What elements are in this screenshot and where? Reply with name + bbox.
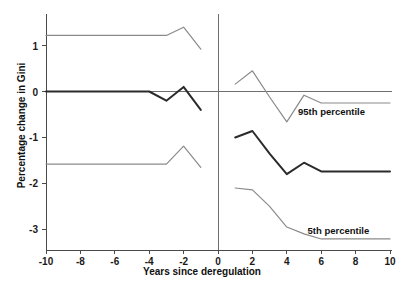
axis-layer (42, 14, 392, 254)
reference-lines-layer (46, 14, 392, 250)
gini-event-study-chart: -10-8-6-4-20246810 10-1-2-3 95th percent… (0, 0, 404, 286)
series-line-lower-confidence-band-pre-deregulation (46, 146, 201, 167)
plot-area (0, 0, 404, 286)
series-annotation-5th-percentile: 5th percentile (308, 225, 370, 236)
y-axis-title: Percentage change in Gini (16, 31, 27, 221)
series-annotation-95th-percentile: 95th percentile (298, 105, 365, 116)
y-tick-label: -3 (0, 224, 38, 235)
series-line-upper-confidence-band-pre-deregulation (46, 27, 201, 49)
series-line-central-estimate-post-deregulation (235, 131, 390, 174)
series-line-central-estimate-pre-deregulation (46, 87, 201, 110)
x-axis-title: Years since deregulation (0, 266, 404, 277)
